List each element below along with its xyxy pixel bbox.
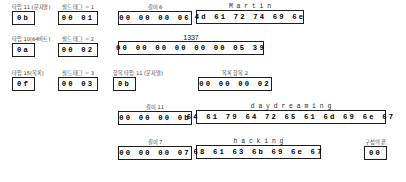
bytes-string-hacking: 68 61 63 6b 69 6e 67 bbox=[196, 145, 321, 159]
bytes-length-7: 00 00 00 07 bbox=[118, 146, 192, 160]
caption-field-tag-3: 필드 태그 = 3 bbox=[58, 70, 98, 77]
field-type-byte-string: 타입 11 (문자열) 0b bbox=[12, 4, 50, 25]
bytes-string-martin: 4d 61 72 74 69 6e bbox=[196, 10, 304, 24]
thrift-binary-encoding-diagram: 타입 11 (문자열) 0b 필드 태그 = 1 00 01 길이 6 00 0… bbox=[0, 0, 406, 182]
bytes-int64-1337: 00 00 00 00 00 00 05 39 bbox=[118, 41, 264, 55]
caption-length-6: 길이 6 bbox=[118, 4, 192, 11]
bytes-field-tag-3: 00 03 bbox=[58, 77, 98, 91]
caption-ascii-hacking: h a c k i n g bbox=[196, 138, 321, 145]
caption-type-10-64bit: 타입 10(64비트) bbox=[12, 36, 50, 43]
caption-field-tag-2: 필드 태그 = 2 bbox=[58, 36, 98, 43]
field-length-6: 길이 6 00 00 00 06 bbox=[118, 4, 192, 25]
field-tag-1: 필드 태그 = 1 00 01 bbox=[58, 4, 98, 25]
bytes-type-15-list: 0f bbox=[12, 77, 35, 91]
field-item-type-byte: 항목 타입 11 (문자열) 0b bbox=[113, 70, 163, 91]
caption-ascii-martin: M a r t i n bbox=[196, 3, 304, 10]
field-list-item-count: 목록 항목 2 00 00 00 02 bbox=[198, 70, 272, 91]
bytes-field-tag-2: 00 02 bbox=[58, 43, 98, 57]
bytes-length-6: 00 00 00 06 bbox=[118, 11, 192, 25]
bytes-length-11: 00 00 00 0b bbox=[118, 111, 192, 125]
field-tag-2: 필드 태그 = 2 00 02 bbox=[58, 36, 98, 57]
caption-value-1337: 1337 bbox=[118, 34, 264, 41]
caption-list-items-2: 목록 항목 2 bbox=[198, 70, 272, 77]
caption-field-tag-1: 필드 태그 = 1 bbox=[58, 4, 98, 11]
field-tag-3: 필드 태그 = 3 00 03 bbox=[58, 70, 98, 91]
caption-type-11-string: 타입 11 (문자열) bbox=[12, 4, 50, 11]
caption-length-7: 길이 7 bbox=[118, 139, 192, 146]
field-type-byte-list: 타입 15(목록) 0f bbox=[12, 70, 44, 91]
field-end-of-struct: 구성의 끝 00 bbox=[364, 139, 387, 160]
bytes-field-tag-1: 00 01 bbox=[58, 11, 98, 25]
field-length-11: 길이 11 00 00 00 0b bbox=[118, 104, 192, 125]
caption-ascii-daydreaming: d a y d r e a m i n g bbox=[196, 103, 386, 110]
caption-item-type-11-string: 항목 타입 11 (문자열) bbox=[113, 70, 163, 77]
bytes-string-daydreaming: 64 61 79 64 72 65 61 6d 69 6e 67 bbox=[196, 110, 386, 124]
caption-type-15-list: 타입 15(목록) bbox=[12, 70, 44, 77]
bytes-item-type-11-string: 0b bbox=[113, 77, 136, 91]
bytes-end-of-struct: 00 bbox=[364, 146, 387, 160]
field-string-hacking: h a c k i n g 68 61 63 6b 69 6e 67 bbox=[196, 138, 321, 159]
caption-end-of-struct: 구성의 끝 bbox=[364, 139, 387, 146]
field-int64-value-1337: 1337 00 00 00 00 00 00 05 39 bbox=[118, 34, 264, 55]
field-string-daydreaming: d a y d r e a m i n g 64 61 79 64 72 65 … bbox=[196, 103, 386, 124]
bytes-type-11-string: 0b bbox=[12, 11, 35, 25]
field-length-7: 길이 7 00 00 00 07 bbox=[118, 139, 192, 160]
bytes-type-10-64bit: 0a bbox=[12, 43, 35, 57]
caption-length-11: 길이 11 bbox=[118, 104, 192, 111]
bytes-list-items-2: 00 00 00 02 bbox=[198, 77, 272, 91]
field-type-byte-int64: 타입 10(64비트) 0a bbox=[12, 36, 50, 57]
field-string-martin: M a r t i n 4d 61 72 74 69 6e bbox=[196, 3, 304, 24]
